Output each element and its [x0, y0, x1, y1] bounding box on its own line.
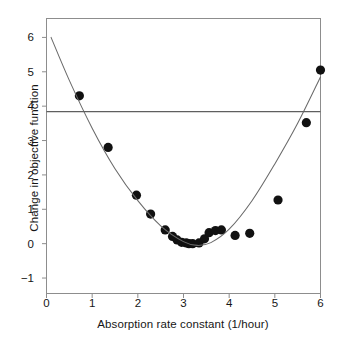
data-point [302, 118, 311, 127]
chart-figure: Change in objective function Absorption … [0, 0, 337, 339]
data-point [146, 209, 155, 218]
data-point [104, 143, 113, 152]
fitted-curve [51, 37, 320, 245]
data-point-group [75, 65, 325, 248]
plot-area [0, 0, 337, 339]
data-point [231, 231, 240, 240]
data-point [245, 229, 254, 238]
data-point [316, 65, 325, 74]
data-point [273, 195, 282, 204]
